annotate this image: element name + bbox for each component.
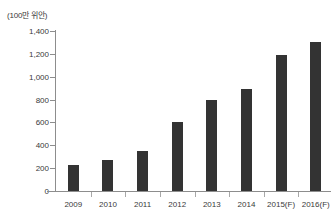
x-axis-tick-label: 2013 bbox=[203, 200, 221, 209]
bar-chart: (100만 위안) 02004006008001,0001,2001,400 2… bbox=[0, 0, 333, 222]
y-axis-tick-label: 400 bbox=[36, 141, 49, 150]
y-axis-tick-label: 200 bbox=[36, 164, 49, 173]
x-axis-tick-label: 2015(F) bbox=[267, 200, 295, 209]
x-axis-tick-label: 2016(F) bbox=[302, 200, 330, 209]
x-axis-tick-label: 2009 bbox=[64, 200, 82, 209]
bar bbox=[137, 151, 148, 191]
y-axis-tick-mark bbox=[50, 77, 55, 78]
y-axis-tick-labels: 02004006008001,0001,2001,400 bbox=[0, 0, 49, 222]
x-axis-tick-mark bbox=[195, 192, 196, 197]
y-axis-tick-label: 600 bbox=[36, 118, 49, 127]
x-axis-tick-mark bbox=[125, 192, 126, 197]
y-axis-tick-label: 1,400 bbox=[29, 27, 49, 36]
y-axis-tick-mark bbox=[50, 31, 55, 32]
y-axis-tick-label: 800 bbox=[36, 95, 49, 104]
bar bbox=[206, 100, 217, 191]
bar bbox=[172, 122, 183, 191]
plot-area bbox=[56, 31, 333, 191]
x-axis-tick-label: 2011 bbox=[134, 200, 151, 209]
x-axis-line bbox=[47, 191, 331, 192]
x-axis-tick-label: 2010 bbox=[99, 200, 117, 209]
y-axis-tick-mark bbox=[50, 122, 55, 123]
x-axis-tick-label: 2014 bbox=[238, 200, 256, 209]
x-axis-tick-mark bbox=[298, 192, 299, 197]
bar bbox=[310, 42, 321, 191]
y-axis-tick-label: 1,000 bbox=[29, 72, 49, 81]
bar bbox=[241, 89, 252, 191]
x-axis-tick-mark bbox=[160, 192, 161, 197]
x-axis-tick-label: 2012 bbox=[168, 200, 186, 209]
y-axis-tick-mark bbox=[50, 145, 55, 146]
bar bbox=[276, 55, 287, 191]
x-axis-tick-mark bbox=[229, 192, 230, 197]
bar bbox=[102, 160, 113, 191]
y-axis-tick-label: 1,200 bbox=[29, 49, 49, 58]
y-axis-tick-mark bbox=[50, 54, 55, 55]
y-axis-tick-mark bbox=[50, 100, 55, 101]
x-axis-tick-mark bbox=[264, 192, 265, 197]
bar bbox=[68, 165, 79, 191]
y-axis-tick-mark bbox=[50, 168, 55, 169]
y-axis-tick-mark bbox=[50, 191, 55, 192]
x-axis-tick-mark bbox=[91, 192, 92, 197]
